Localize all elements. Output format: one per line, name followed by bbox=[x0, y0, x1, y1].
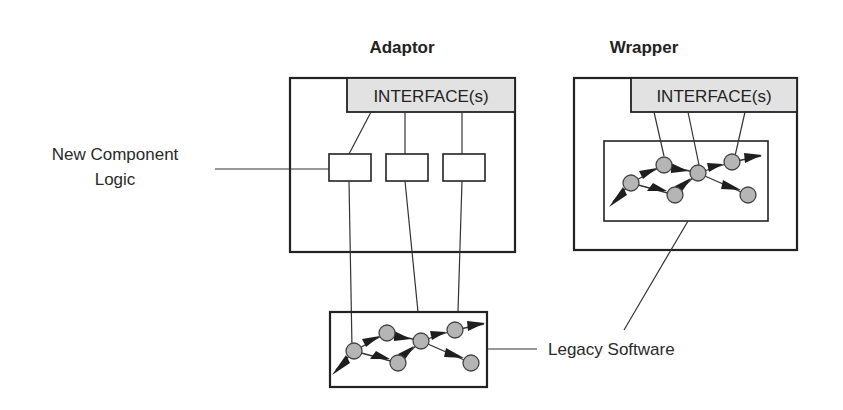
wrapper-legacy-pointer bbox=[624, 221, 688, 330]
new-component-logic-label-line2: Logic bbox=[95, 170, 136, 189]
adaptor-wrapper-diagram: Adaptor INTERFACE(s) New Component Logic… bbox=[0, 0, 843, 410]
legacy-software-box bbox=[330, 312, 487, 387]
logic-box-1 bbox=[329, 154, 371, 181]
logic-box-2 bbox=[386, 154, 428, 181]
wrapper-interface-label: INTERFACE(s) bbox=[656, 87, 771, 106]
legacy-software-label: Legacy Software bbox=[548, 340, 675, 359]
adaptor-title: Adaptor bbox=[369, 38, 435, 57]
new-component-logic-label-line1: New Component bbox=[52, 145, 179, 164]
logic-box-3 bbox=[443, 154, 485, 181]
wrapper-title: Wrapper bbox=[610, 38, 679, 57]
adaptor-interface-label: INTERFACE(s) bbox=[373, 87, 488, 106]
adaptor-container: INTERFACE(s) bbox=[290, 78, 515, 348]
